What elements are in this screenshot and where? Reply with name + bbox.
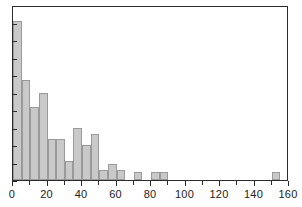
histogram-bar [117,170,126,180]
histogram-bar [56,139,65,180]
x-axis-minor-tick [167,181,168,185]
histogram-bar [134,172,143,180]
histogram-bar [39,93,48,181]
histogram-bar [82,145,91,180]
x-axis-major-tick [219,181,220,186]
x-axis-minor-tick [236,181,237,185]
histogram-bar [99,170,108,180]
x-axis-major-tick [254,181,255,186]
x-axis-minor-tick [271,181,272,185]
x-axis-major-tick [185,181,186,186]
histogram-bar [91,134,100,180]
x-axis-major-tick [288,181,289,186]
x-axis-minor-tick [64,181,65,185]
histogram-bar [108,164,117,180]
x-axis-minor-tick [29,181,30,185]
histogram-bar [65,161,74,180]
y-axis-tick [12,111,17,112]
y-axis-tick [12,164,17,165]
histogram-bar [30,107,39,180]
x-axis-major-tick [81,181,82,186]
x-axis-major-tick [12,181,13,186]
histogram-bar [160,172,169,180]
y-axis-tick [12,6,17,7]
x-axis-minor-tick [202,181,203,185]
y-axis-tick [12,146,17,147]
x-axis-major-tick [150,181,151,186]
histogram-figure: 020406080100120140160 [0,0,302,207]
y-axis-tick [12,129,17,130]
x-axis-minor-tick [98,181,99,185]
x-axis-tick-label: 160 [268,188,302,201]
x-axis-major-tick [116,181,117,186]
plot-frame [12,6,288,181]
y-axis-tick [12,59,17,60]
y-axis-tick [12,41,17,42]
histogram-bar [272,172,281,180]
histogram-bar [22,80,31,180]
histogram-bar [73,128,82,181]
x-axis-minor-tick [133,181,134,185]
histogram-bar [48,139,57,180]
bars-layer [13,7,287,180]
y-axis-tick [12,76,17,77]
y-axis-tick [12,24,17,25]
x-axis-major-tick [47,181,48,186]
y-axis-tick [12,94,17,95]
histogram-bar [151,172,160,180]
histogram-bar [13,21,22,180]
